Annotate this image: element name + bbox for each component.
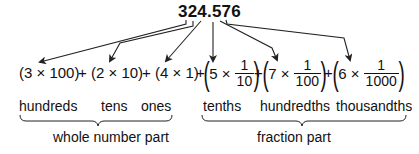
place-thousandths: thousandths (336, 98, 412, 114)
plus-sign: + (254, 64, 263, 81)
whole-number-part-label: whole number part (53, 129, 169, 145)
plus-sign: + (78, 64, 87, 81)
place-tenths: tenths (203, 98, 241, 114)
fraction-brace (202, 115, 406, 126)
arrow-thousandths (226, 20, 350, 60)
term-tenths: ( 5 × 110 ) (204, 56, 260, 90)
left-paren: ( (263, 56, 269, 90)
fraction-hundredths: 1100 (294, 58, 321, 89)
place-hundredths: hundredths (260, 98, 330, 114)
fraction-part-label: fraction part (257, 129, 331, 145)
right-paren: ) (398, 56, 404, 90)
fraction-thousandths: 11000 (364, 58, 399, 89)
place-ones: ones (141, 98, 171, 114)
arrow-ones (166, 21, 201, 61)
plus-sign: + (142, 64, 151, 81)
whole-brace (20, 115, 172, 126)
place-tens: tens (101, 98, 127, 114)
term-tens: (2 × 10) (91, 64, 143, 81)
fraction-tenths: 110 (235, 58, 255, 89)
term-hundredths: ( 7 × 1100 ) (263, 56, 326, 90)
left-paren: ( (204, 56, 210, 90)
place-hundreds: hundreds (19, 98, 77, 114)
plus-sign: + (324, 64, 333, 81)
term-thousandths: ( 6 × 11000 ) (333, 56, 404, 90)
left-paren: ( (333, 56, 339, 90)
term-hundreds: (3 × 100) (19, 64, 79, 81)
term-ones: (4 × 1) (155, 64, 199, 81)
